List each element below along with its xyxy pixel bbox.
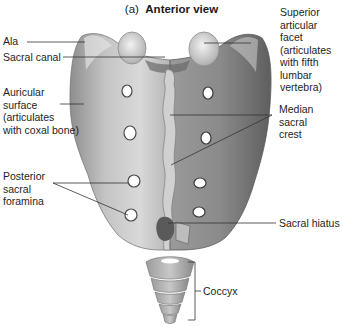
sacral-hiatus	[156, 217, 174, 241]
foramen-right-2	[194, 178, 206, 188]
label-auricular-surface: Auricular surface (articulates with coxa…	[3, 86, 79, 136]
foramen-left-0	[122, 85, 132, 97]
foramen-right-0	[203, 87, 213, 99]
label-median-sacral-crest: Median sacral crest	[279, 103, 343, 141]
label-sacral-canal: Sacral canal	[3, 51, 61, 64]
foramen-left-2	[128, 175, 140, 187]
foramen-right-1	[201, 132, 211, 144]
right-articular-facet	[189, 32, 219, 66]
foramen-left-1	[124, 126, 136, 140]
label-sacral-hiatus: Sacral hiatus	[279, 217, 340, 230]
foramen-right-3	[193, 207, 205, 217]
foramen-left-3	[125, 209, 137, 221]
left-articular-facet	[118, 32, 146, 64]
label-coccyx: Coccyx	[203, 285, 237, 298]
label-ala: Ala	[3, 35, 18, 48]
coccyx-segments	[146, 257, 194, 324]
label-posterior-sacral-foramina: Posterior sacral foramina	[3, 170, 45, 208]
label-superior-articular-facet: Superior articular facet (articulates wi…	[280, 6, 343, 94]
